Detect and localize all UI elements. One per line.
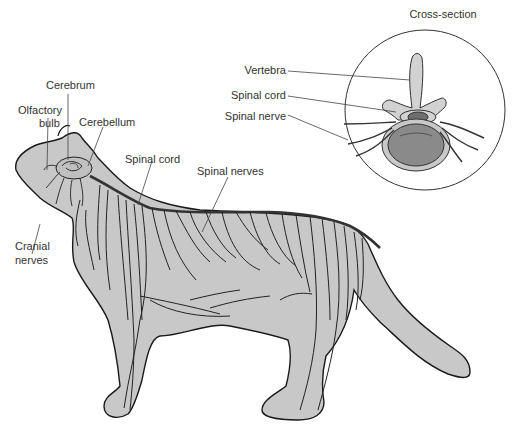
label-spinal-nerves: Spinal nerves bbox=[197, 165, 264, 178]
label-olfactory-bulb-line1: Olfactory bbox=[18, 104, 62, 117]
label-spinal-cord: Spinal cord bbox=[125, 153, 180, 166]
label-spinal-nerve: Spinal nerve bbox=[206, 110, 286, 123]
label-inset-spinal-cord: Spinal cord bbox=[216, 89, 286, 102]
label-cranial-nerves-line2: nerves bbox=[15, 254, 48, 267]
label-cranial-nerves-line1: Cranial bbox=[15, 240, 50, 253]
vertebral-disc bbox=[388, 124, 444, 166]
inset-title: Cross-section bbox=[409, 8, 476, 21]
brain bbox=[56, 157, 92, 179]
label-cerebrum: Cerebrum bbox=[46, 79, 95, 92]
label-vertebra: Vertebra bbox=[236, 64, 286, 77]
label-olfactory-bulb-line2: bulb bbox=[39, 117, 60, 130]
label-cerebellum: Cerebellum bbox=[79, 116, 135, 129]
